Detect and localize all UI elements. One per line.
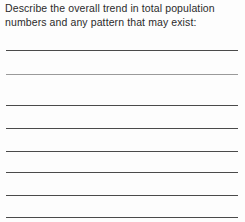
answer-line-4[interactable] bbox=[6, 128, 238, 129]
answer-line-7[interactable] bbox=[6, 195, 238, 196]
answer-line-3[interactable] bbox=[6, 105, 238, 106]
answer-line-8[interactable] bbox=[6, 217, 238, 218]
worksheet-question-block: Describe the overall trend in total popu… bbox=[0, 0, 245, 222]
answer-lines-container[interactable] bbox=[0, 0, 245, 222]
answer-line-1[interactable] bbox=[6, 50, 238, 51]
answer-line-5[interactable] bbox=[6, 151, 238, 152]
answer-line-2[interactable] bbox=[6, 74, 238, 75]
answer-line-6[interactable] bbox=[6, 172, 238, 173]
